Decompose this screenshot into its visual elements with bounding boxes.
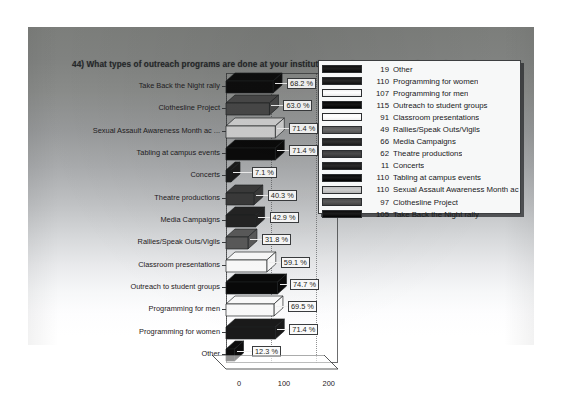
legend-label: Take Back the Night rally [393, 210, 479, 219]
category-tick [222, 86, 226, 87]
category-tick [222, 175, 226, 176]
legend-item[interactable]: 91Classroom presentations [319, 111, 520, 123]
legend-swatch [322, 126, 362, 134]
value-leader-line [250, 239, 262, 240]
bar-value-label: 40.3 % [268, 190, 297, 201]
value-leader-line [277, 128, 289, 129]
legend-swatch [322, 174, 362, 182]
legend-label: Media Campaigns [393, 137, 456, 146]
bar-value-label: 59.1 % [281, 257, 310, 268]
bar-value-label: 31.8 % [262, 234, 291, 245]
category-label: Tabling at campus events [137, 149, 220, 157]
legend-swatch [322, 113, 362, 121]
category-label: Classroom presentations [138, 261, 220, 269]
value-axis: 0100200 [212, 379, 347, 393]
category-label: Clothesline Project [158, 104, 220, 112]
legend-count: 11 [366, 161, 389, 170]
x-tick-label: 200 [323, 379, 335, 388]
legend-item[interactable]: 110Programming for women [319, 75, 520, 87]
category-tick [222, 287, 226, 288]
value-leader-line [271, 105, 283, 106]
legend-label: Theatre productions [393, 149, 462, 158]
plot-floor-3d [212, 355, 338, 371]
value-leader-line [256, 195, 268, 196]
category-label: Take Back the Night rally [139, 82, 220, 90]
value-leader-line [277, 150, 289, 151]
legend-label: Sexual Assault Awareness Month ac [393, 185, 519, 194]
value-leader-line [280, 284, 290, 285]
value-leader-line [275, 83, 287, 84]
legend-swatch [322, 210, 362, 218]
legend-swatch [322, 89, 362, 97]
legend-count: 107 [366, 89, 389, 98]
legend-label: Classroom presentations [393, 113, 479, 122]
legend-count: 66 [366, 137, 389, 146]
legend-count: 49 [366, 125, 389, 134]
category-label: Media Campaigns [160, 216, 220, 224]
value-leader-line [237, 351, 252, 352]
legend-swatch [322, 65, 362, 73]
legend-item[interactable]: 105Take Back the Night rally [319, 208, 520, 220]
legend-label: Programming for women [393, 77, 478, 86]
category-label: Programming for men [149, 305, 220, 313]
x-tick-label: 0 [237, 379, 241, 388]
legend-count: 110 [366, 173, 389, 182]
category-tick [222, 220, 226, 221]
value-leader-line [276, 306, 288, 307]
chart-legend: 19Other110Programming for women107Progra… [318, 60, 521, 214]
legend-swatch [322, 162, 362, 170]
category-label: Theatre productions [154, 194, 220, 202]
scanned-page: 44) What types of outreach programs are … [0, 0, 562, 397]
bar-value-label: 71.4 % [289, 324, 318, 335]
legend-swatch [322, 77, 362, 85]
legend-item[interactable]: 19Other [319, 63, 520, 75]
category-tick [222, 131, 226, 132]
category-label: Sexual Assault Awareness Month ac ... [93, 127, 220, 135]
legend-swatch [322, 186, 362, 194]
category-tick [222, 108, 226, 109]
legend-label: Clothesline Project [393, 198, 458, 207]
legend-item[interactable]: 62Theatre productions [319, 148, 520, 160]
legend-count: 110 [366, 77, 389, 86]
bar-value-label: 63.0 % [283, 100, 312, 111]
legend-item[interactable]: 115Outreach to student groups [319, 99, 520, 111]
category-label: Rallies/Speak Outs/Vigils [138, 238, 220, 246]
category-tick [222, 332, 226, 333]
category-label: Programming for women [139, 328, 220, 336]
legend-swatch [322, 150, 362, 158]
legend-item[interactable]: 49Rallies/Speak Outs/Vigils [319, 123, 520, 135]
legend-item[interactable]: 97Clothesline Project [319, 196, 520, 208]
category-tick [222, 198, 226, 199]
value-leader-line [277, 329, 289, 330]
legend-item[interactable]: 66Media Campaigns [319, 136, 520, 148]
legend-label: Concerts [393, 161, 424, 170]
legend-label: Outreach to student groups [393, 101, 488, 110]
legend-label: Rallies/Speak Outs/Vigils [393, 125, 480, 134]
bar-value-label: 71.4 % [289, 123, 318, 134]
legend-count: 19 [366, 65, 389, 74]
category-tick [222, 265, 226, 266]
legend-swatch [322, 198, 362, 206]
legend-count: 115 [366, 101, 389, 110]
legend-count: 97 [366, 198, 389, 207]
legend-label: Other [393, 65, 413, 74]
legend-count: 105 [366, 210, 389, 219]
legend-count: 62 [366, 149, 389, 158]
legend-label: Programming for men [393, 89, 468, 98]
x-tick-label: 100 [278, 379, 290, 388]
legend-swatch [322, 138, 362, 146]
category-label: Concerts [190, 171, 220, 179]
value-leader-line [269, 262, 281, 263]
legend-item[interactable]: 110Sexual Assault Awareness Month ac [319, 184, 520, 196]
value-leader-line [233, 172, 252, 173]
legend-item[interactable]: 107Programming for men [319, 87, 520, 99]
legend-swatch [322, 101, 362, 109]
bar-value-label: 69.5 % [288, 301, 317, 312]
legend-item[interactable]: 11Concerts [319, 160, 520, 172]
bar-value-label: 68.2 % [287, 78, 316, 89]
legend-label: Tabling at campus events [393, 173, 481, 182]
bar-value-label: 7.1 % [252, 167, 277, 178]
legend-item[interactable]: 110Tabling at campus events [319, 172, 520, 184]
legend-count: 91 [366, 113, 389, 122]
bar-value-label: 71.4 % [289, 145, 318, 156]
